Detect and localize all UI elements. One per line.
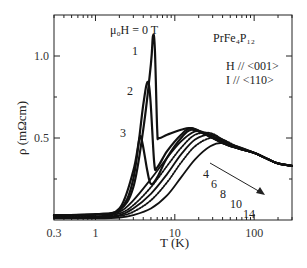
y-tick-label: 0.5: [34, 131, 49, 145]
orientation-h-label: H // <001>: [226, 59, 279, 73]
x-tick-label: 0.3: [47, 226, 62, 240]
field-label-14: 14: [243, 207, 255, 221]
compound-label: PrFe₄P₁₂: [213, 31, 255, 45]
curve-label-1: 1: [132, 44, 138, 58]
orientation-i-label: I // <110>: [226, 73, 274, 87]
y-tick-label: 1.0: [34, 49, 49, 63]
y-axis-label: ρ (mΩcm): [14, 101, 29, 155]
resistivity-chart: 0.31101000.51.0 μ₀H = 0 T PrFe₄P₁₂ H // …: [0, 0, 307, 268]
field-label-6: 6: [211, 177, 217, 191]
field-label-4: 4: [203, 167, 209, 181]
x-tick-label: 1: [92, 226, 98, 240]
curve-label-2: 2: [127, 84, 133, 98]
x-tick-label: 100: [245, 226, 263, 240]
field-label-10: 10: [230, 197, 242, 211]
field-label-8: 8: [220, 187, 226, 201]
field-label: μ₀H = 0 T: [110, 23, 159, 37]
curve-14-t: [54, 143, 292, 219]
arrow-head-icon: [256, 187, 265, 195]
x-axis-label: T (K): [160, 235, 189, 250]
field-arrow: [210, 163, 265, 195]
curve-label-3: 3: [120, 126, 126, 140]
